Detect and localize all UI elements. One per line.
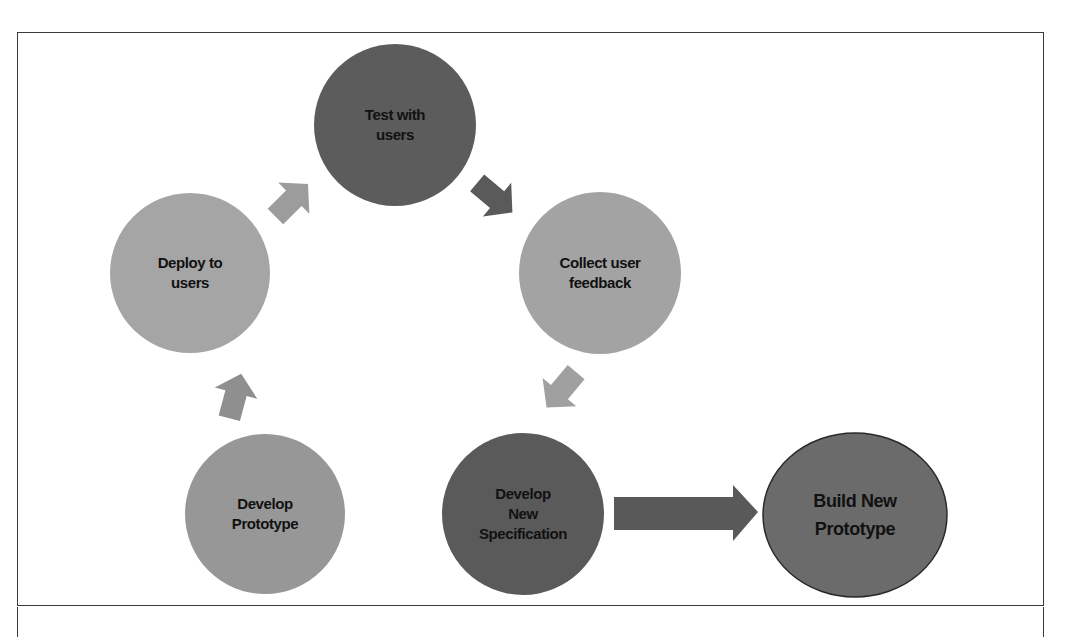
arrow-deploy-to-test-icon bbox=[260, 168, 324, 232]
label-build-new-prototype: Build New Prototype bbox=[763, 475, 947, 555]
label-develop-prototype: Develop Prototype bbox=[187, 474, 343, 554]
label-test-with-users: Test with users bbox=[315, 85, 475, 165]
label-collect-user-feedback: Collect user feedback bbox=[520, 233, 680, 313]
arrow-prototype-to-deploy-icon bbox=[208, 368, 262, 424]
arrow-collect-to-spec-icon bbox=[530, 358, 593, 422]
label-develop-new-specification: Develop New Specification bbox=[443, 474, 603, 554]
arrow-spec-to-build-icon bbox=[614, 485, 758, 541]
arrow-test-to-collect-icon bbox=[463, 166, 527, 229]
label-deploy-to-users: Deploy to users bbox=[112, 233, 268, 313]
